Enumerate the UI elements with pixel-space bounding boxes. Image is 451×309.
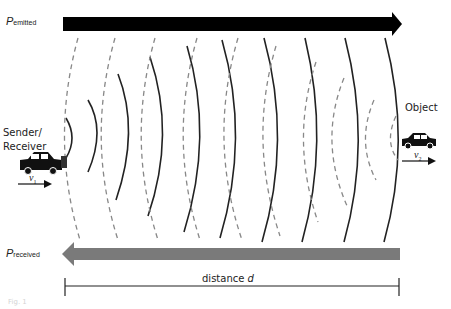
emitted-arrow	[63, 12, 402, 36]
sender-label-line2: Receiver	[3, 141, 46, 153]
v2-label: v2	[414, 149, 421, 165]
sender-car-icon	[20, 152, 67, 175]
emitted-waves	[66, 38, 398, 242]
received-arrow	[62, 242, 400, 266]
v1-label: v1	[29, 172, 36, 188]
figure-caption: Fig. 1	[8, 298, 27, 306]
object-label: Object	[405, 102, 438, 114]
diagram-canvas	[0, 0, 451, 309]
object-car-icon	[402, 133, 436, 149]
emitted-power-label: Pemitted	[6, 15, 36, 29]
sender-label-line1: Sender/	[3, 127, 42, 139]
received-power-label: Preceived	[6, 247, 40, 261]
reflected-waves	[64, 38, 398, 240]
distance-label: distance d	[202, 273, 254, 285]
